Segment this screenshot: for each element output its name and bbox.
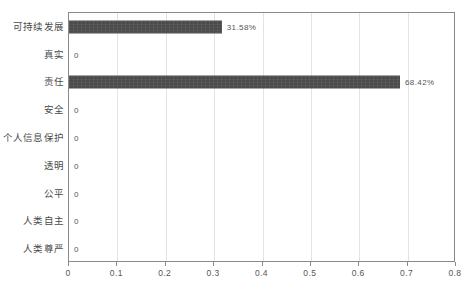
bar-value-label: 0 <box>74 161 79 170</box>
bar-row: 68.42% <box>69 69 454 97</box>
axis-tick-label: 0.6 <box>352 268 365 278</box>
category-axis-labels: 可持续发展真实责任安全个人信息保护透明公平人类自主人类尊严 <box>0 12 64 262</box>
bar-row: 31.58% <box>69 13 454 41</box>
axis-tick-label: 0.5 <box>303 268 316 278</box>
axis-tick <box>165 262 166 266</box>
bar-value-label: 31.58% <box>227 22 257 31</box>
bar-value-label: 0 <box>74 50 79 59</box>
bar <box>69 20 222 33</box>
category-label: 人类自主 <box>0 213 64 227</box>
category-label: 责任 <box>0 74 64 88</box>
axis-tick <box>358 262 359 266</box>
bar-row: 0 <box>69 207 454 235</box>
value-axis: 00.10.20.30.40.50.60.70.8 <box>68 262 455 288</box>
bar-value-label: 0 <box>74 245 79 254</box>
bar-row: 0 <box>69 41 454 69</box>
bar-row: 0 <box>69 124 454 152</box>
axis-tick <box>407 262 408 266</box>
bar-value-label: 68.42% <box>405 78 435 87</box>
bar-value-label: 0 <box>74 106 79 115</box>
bar-row: 0 <box>69 180 454 208</box>
horizontal-bar-chart: 可持续发展真实责任安全个人信息保护透明公平人类自主人类尊严 31.58%068.… <box>0 0 475 290</box>
axis-tick <box>116 262 117 266</box>
category-label: 真实 <box>0 47 64 61</box>
bar-row: 0 <box>69 96 454 124</box>
axis-tick-label: 0.4 <box>255 268 268 278</box>
bar-row: 0 <box>69 152 454 180</box>
axis-tick <box>68 262 69 266</box>
axis-tick <box>262 262 263 266</box>
category-label: 安全 <box>0 102 64 116</box>
category-label: 透明 <box>0 158 64 172</box>
axis-tick-label: 0.2 <box>158 268 171 278</box>
category-label: 公平 <box>0 186 64 200</box>
bar <box>69 76 400 89</box>
bar-value-label: 0 <box>74 217 79 226</box>
axis-tick <box>455 262 456 266</box>
axis-tick <box>213 262 214 266</box>
category-label: 可持续发展 <box>0 19 64 33</box>
category-label: 个人信息保护 <box>0 130 64 144</box>
bar-value-label: 0 <box>74 133 79 142</box>
axis-tick-label: 0.3 <box>207 268 220 278</box>
axis-tick-label: 0.7 <box>400 268 413 278</box>
axis-tick-label: 0.1 <box>110 268 123 278</box>
axis-tick-label: 0.8 <box>448 268 461 278</box>
bar-value-label: 0 <box>74 189 79 198</box>
plot-area: 31.58%068.42%000000 <box>68 12 455 262</box>
axis-tick-label: 0 <box>65 268 70 278</box>
axis-tick <box>310 262 311 266</box>
category-label: 人类尊严 <box>0 241 64 255</box>
bar-row: 0 <box>69 235 454 262</box>
